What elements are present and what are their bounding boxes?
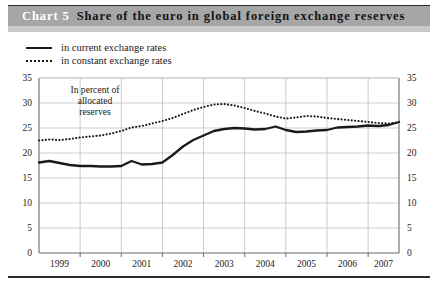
x-axis-tick-label: 2000 (91, 259, 110, 269)
y-axis-tick-label-left: 5 (27, 223, 32, 233)
y-axis-tick-label-right: 0 (407, 248, 412, 258)
annotation-line-1: In percent of (58, 84, 132, 95)
y-axis-tick-label-right: 35 (407, 73, 417, 83)
annotation-line-3: reserves (58, 106, 132, 117)
data-series-solid (39, 122, 399, 167)
y-axis-tick-label-left: 15 (23, 173, 33, 183)
plot-annotation: In percent of allocated reserves (58, 84, 132, 117)
x-axis-tick-label: 2006 (338, 259, 357, 269)
x-axis-tick-label: 1999 (50, 259, 69, 269)
footer-rule (8, 276, 430, 278)
plot-area: 3535303025252020151510105500199920002001… (0, 0, 438, 284)
chart-figure: Chart 5 Share of the euro in global fore… (0, 0, 438, 284)
y-axis-tick-label-left: 25 (23, 123, 33, 133)
y-axis-tick-label-left: 20 (23, 148, 33, 158)
y-axis-tick-label-right: 5 (407, 223, 412, 233)
y-axis-tick-label-right: 10 (407, 198, 417, 208)
annotation-line-2: allocated (58, 95, 132, 106)
y-axis-tick-label-left: 0 (27, 248, 32, 258)
chart-canvas: 3535303025252020151510105500199920002001… (0, 0, 438, 284)
x-axis-tick-label: 2005 (297, 259, 316, 269)
y-axis-tick-label-left: 10 (23, 198, 33, 208)
y-axis-tick-label-left: 30 (23, 98, 33, 108)
x-axis-tick-label: 2001 (132, 259, 151, 269)
y-axis-tick-label-right: 20 (407, 148, 417, 158)
y-axis-tick-label-right: 30 (407, 98, 417, 108)
y-axis-tick-label-right: 25 (407, 123, 417, 133)
x-axis-tick-label: 2002 (174, 259, 193, 269)
y-axis-tick-label-left: 35 (23, 73, 33, 83)
x-axis-tick-label: 2004 (256, 259, 275, 269)
x-axis-tick-label: 2007 (374, 259, 393, 269)
y-axis-tick-label-right: 15 (407, 173, 417, 183)
x-axis-tick-label: 2003 (215, 259, 234, 269)
